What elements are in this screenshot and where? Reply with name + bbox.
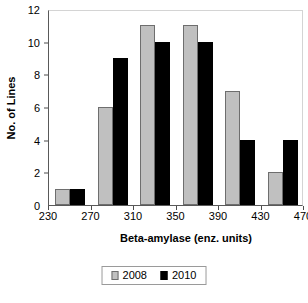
bar-2008-250	[55, 189, 70, 205]
x-axis-tick-label: 310	[124, 211, 142, 222]
y-axis-title: No. of Lines	[0, 0, 22, 215]
plot-area	[48, 10, 303, 206]
bar-2010-450	[283, 140, 298, 205]
legend-label-2008: 2008	[123, 270, 147, 281]
bar-2008-450	[268, 172, 283, 205]
x-axis-tick-label: 430	[251, 211, 269, 222]
y-axis-tick-label: 4	[34, 135, 40, 146]
bar-2008-290	[98, 107, 113, 205]
bar-chart-figure: No. of Lines 024681012 23027031035039043…	[0, 0, 308, 303]
y-axis-tick-label: 6	[34, 103, 40, 114]
bar-2008-370	[183, 25, 198, 205]
legend-swatch-2010	[161, 271, 168, 280]
bar-2008-330	[140, 25, 155, 205]
bar-2010-410	[240, 140, 255, 205]
x-axis-tick-label: 230	[39, 211, 57, 222]
bar-series-container	[49, 11, 302, 205]
bar-2010-370	[198, 42, 213, 205]
y-axis-ticks: 024681012	[22, 10, 44, 206]
bar-2010-290	[113, 58, 128, 205]
legend-item-2008: 2008	[112, 270, 147, 281]
plot-wrapper: 024681012 230270310350390430470 Beta-amy…	[22, 10, 306, 220]
x-axis-ticks: 230270310350390430470	[48, 206, 303, 228]
y-axis-tick-label: 10	[28, 37, 40, 48]
x-axis-tick-label: 350	[166, 211, 184, 222]
bar-2008-410	[225, 91, 240, 205]
x-axis-tick-label: 390	[209, 211, 227, 222]
y-axis-tick-label: 2	[34, 168, 40, 179]
y-axis-tick-label: 8	[34, 70, 40, 81]
legend-label-2010: 2010	[172, 270, 196, 281]
x-axis-tick-label: 470	[294, 211, 308, 222]
x-axis-tick-label: 270	[81, 211, 99, 222]
legend-swatch-2008	[112, 271, 119, 280]
y-axis-tick-label: 12	[28, 5, 40, 16]
y-axis-title-text: No. of Lines	[5, 76, 17, 139]
bar-2010-330	[155, 42, 170, 205]
bar-2010-250	[70, 189, 85, 205]
legend-item-2010: 2010	[161, 270, 196, 281]
chart-legend: 20082010	[102, 266, 207, 285]
x-axis-title: Beta-amylase (enz. units)	[44, 232, 308, 244]
